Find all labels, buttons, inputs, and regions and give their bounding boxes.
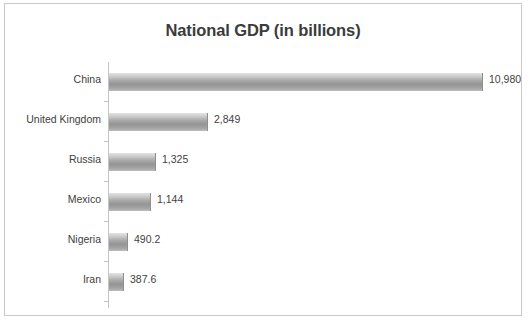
bar-row: Iran 387.6 <box>5 262 522 302</box>
bar-row: United Kingdom 2,849 <box>5 102 522 142</box>
bar-rows: China 10,980 United Kingdom 2,849 Russia… <box>5 62 522 302</box>
bar-value-iran: 387.6 <box>130 273 156 285</box>
bar-row: Russia 1,325 <box>5 142 522 182</box>
bar-china <box>109 73 483 91</box>
bar-row: China 10,980 <box>5 62 522 102</box>
category-label-mexico: Mexico <box>4 193 101 205</box>
bar-mexico <box>109 193 151 211</box>
bar-russia <box>109 153 156 171</box>
category-label-united-kingdom: United Kingdom <box>4 113 101 125</box>
bar-value-china: 10,980 <box>489 73 521 85</box>
plot-area: China 10,980 United Kingdom 2,849 Russia… <box>5 59 522 315</box>
bar-value-mexico: 1,144 <box>157 193 183 205</box>
category-label-nigeria: Nigeria <box>4 233 101 245</box>
category-label-russia: Russia <box>4 153 101 165</box>
bar-value-russia: 1,325 <box>162 153 188 165</box>
chart-title: National GDP (in billions) <box>5 21 521 40</box>
bar-nigeria <box>109 233 128 251</box>
bar-row: Mexico 1,144 <box>5 182 522 222</box>
bar-row: Nigeria 490.2 <box>5 222 522 262</box>
bar-united-kingdom <box>109 113 208 131</box>
bar-value-united-kingdom: 2,849 <box>214 113 240 125</box>
bar-iran <box>109 273 124 291</box>
chart-container: National GDP (in billions) China 10,980 … <box>4 3 522 316</box>
category-label-iran: Iran <box>4 273 101 285</box>
bar-value-nigeria: 490.2 <box>134 233 160 245</box>
category-label-china: China <box>4 73 101 85</box>
axis-tick <box>104 301 108 302</box>
